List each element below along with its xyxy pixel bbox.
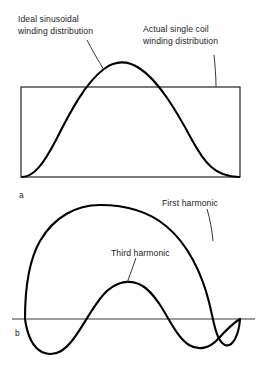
figure-svg: Ideal sinusoidal winding distribution Ac…	[0, 0, 267, 371]
ideal-sinusoidal-leader	[87, 40, 104, 70]
actual-single-coil-leader	[214, 55, 216, 87]
first-harmonic-label: First harmonic	[162, 198, 218, 208]
third-harmonic-leader	[127, 258, 136, 283]
third-harmonic-curve	[25, 282, 240, 354]
first-harmonic-curve	[25, 205, 240, 345]
panel-a-group: Ideal sinusoidal winding distribution Ac…	[17, 14, 240, 200]
ideal-sinusoidal-label-line1: Ideal sinusoidal	[18, 14, 79, 24]
panel-b-group: First harmonic Third harmonic b	[12, 198, 255, 354]
ideal-sinusoidal-label-line2: winding distribution	[17, 26, 93, 36]
third-harmonic-label: Third harmonic	[111, 248, 170, 258]
figure-container: Ideal sinusoidal winding distribution Ac…	[0, 0, 267, 371]
actual-single-coil-label-line2: winding distribution	[142, 36, 218, 46]
panel-letter-a: a	[19, 190, 24, 200]
first-harmonic-leader	[207, 209, 213, 241]
ideal-sinusoidal-curve	[22, 63, 239, 178]
actual-single-coil-label-line1: Actual single coil	[143, 24, 209, 34]
panel-letter-b: b	[15, 328, 20, 338]
